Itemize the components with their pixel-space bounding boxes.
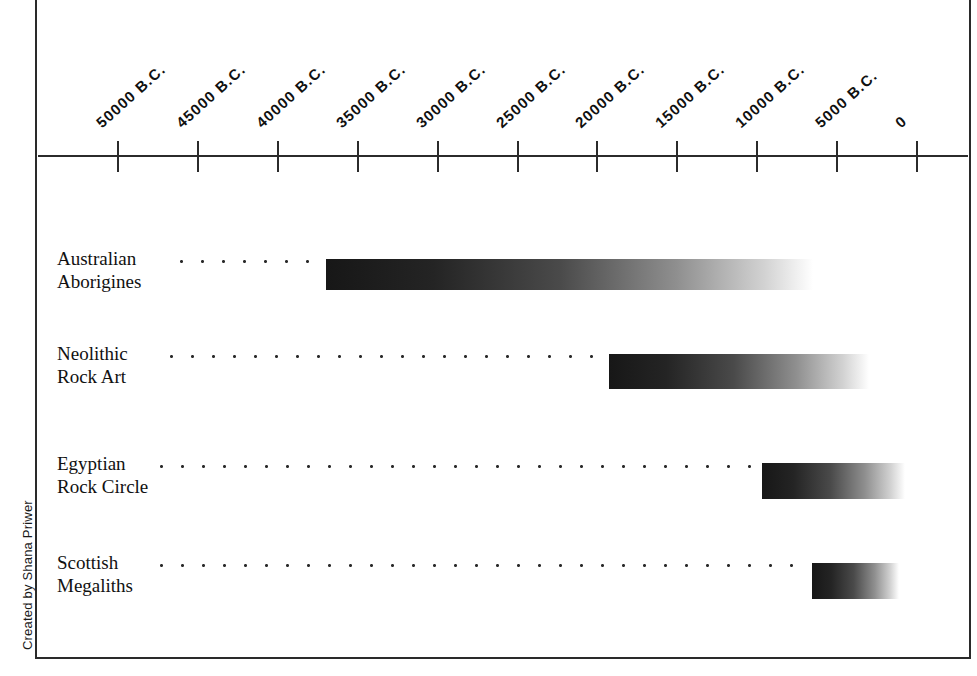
axis-tick-label: 40000 B.C.	[252, 60, 328, 131]
frame-bottom-border	[35, 657, 971, 659]
axis-tick	[916, 141, 918, 172]
axis-tick-label: 45000 B.C.	[173, 60, 249, 131]
timeline-bar	[762, 463, 905, 499]
axis-tick	[437, 141, 439, 172]
axis-tick-label: 35000 B.C.	[332, 60, 408, 131]
row-label-line1: Scottish	[57, 552, 118, 573]
axis-tick-label: 20000 B.C.	[572, 60, 648, 131]
axis-tick-label: 25000 B.C.	[492, 60, 568, 131]
row-label: ScottishMegaliths	[57, 551, 133, 597]
leader-dots	[151, 465, 758, 468]
axis-tick	[756, 141, 758, 172]
frame-right-border	[969, 0, 971, 659]
row-label-line1: Australian	[57, 248, 136, 269]
leader-dots	[161, 355, 605, 358]
axis-tick-label: 50000 B.C.	[93, 60, 169, 131]
row-label-line1: Egyptian	[57, 453, 126, 474]
axis-tick-label: 15000 B.C.	[652, 60, 728, 131]
axis-tick-label: 10000 B.C.	[732, 60, 808, 131]
leader-dots	[171, 260, 322, 263]
row-label: AustralianAborigines	[57, 247, 141, 293]
row-label: EgyptianRock Circle	[57, 452, 148, 498]
axis-tick	[836, 141, 838, 172]
axis-tick	[357, 141, 359, 172]
row-label: NeolithicRock Art	[57, 342, 128, 388]
timeline-bar	[326, 259, 813, 290]
leader-dots	[151, 564, 808, 567]
axis-tick-label: 30000 B.C.	[412, 60, 488, 131]
axis-tick	[277, 141, 279, 172]
frame-left-border	[35, 0, 37, 659]
row-label-line2: Megaliths	[57, 574, 133, 597]
timeline-figure: Created by Shana Priwer 50000 B.C.45000 …	[0, 0, 977, 676]
axis-tick	[596, 141, 598, 172]
credit-text: Created by Shana Priwer	[20, 450, 35, 650]
row-label-line1: Neolithic	[57, 343, 128, 364]
row-label-line2: Rock Circle	[57, 475, 148, 498]
row-label-line2: Rock Art	[57, 365, 128, 388]
axis-tick-label: 5000 B.C.	[812, 67, 881, 131]
timeline-bar	[812, 563, 900, 599]
axis-tick	[676, 141, 678, 172]
axis-tick-label: 0	[892, 112, 910, 131]
axis-tick	[197, 141, 199, 172]
timeline-bar	[609, 354, 869, 389]
axis-tick	[517, 141, 519, 172]
time-axis-line	[38, 155, 968, 157]
axis-tick	[117, 141, 119, 172]
row-label-line2: Aborigines	[57, 270, 141, 293]
